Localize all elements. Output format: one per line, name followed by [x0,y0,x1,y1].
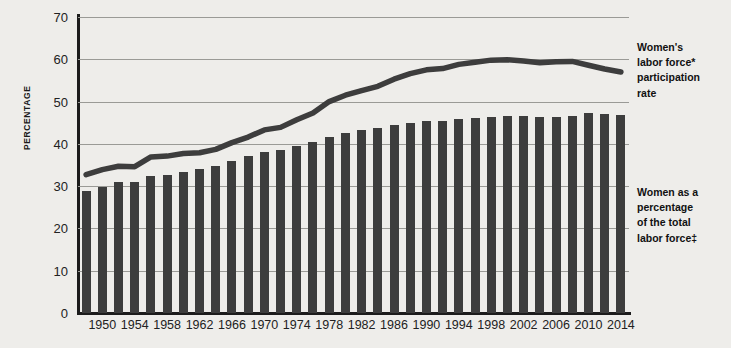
line-path [86,60,621,175]
line-series [78,17,629,313]
y-axis-tick-labels: 706050403020100 [34,0,68,348]
y-tick-label: 20 [34,221,68,236]
y-tick-label: 40 [34,136,68,151]
x-tick-label: 1962 [186,318,214,332]
x-tick-label: 1990 [413,318,441,332]
annotation-line: labor force‡ [637,231,729,246]
y-tick-label: 60 [34,52,68,67]
x-axis-tick-labels: 1950195419581962196619701974197819821986… [0,318,731,338]
y-tick-label: 30 [34,179,68,194]
chart-canvas: PERCENTAGE 706050403020100 1950195419581… [0,0,731,348]
x-tick-label: 1958 [153,318,181,332]
annotation-line: of the total [637,215,729,230]
x-tick-label: 1986 [380,318,408,332]
annotation-line: participation [637,70,729,85]
x-tick-label: 1954 [121,318,149,332]
x-tick-label: 1994 [445,318,473,332]
x-tick-label: 2010 [575,318,603,332]
plot-area [78,17,629,313]
line-series-annotation: Women'slabor force*participationrate [637,40,729,101]
annotation-line: Women's [637,40,729,55]
annotation-line: labor force* [637,55,729,70]
x-tick-label: 1974 [283,318,311,332]
y-tick-label: 50 [34,94,68,109]
x-tick-label: 1998 [477,318,505,332]
x-tick-label: 1978 [315,318,343,332]
y-axis-title: PERCENTAGE [22,86,32,150]
x-tick-label: 2002 [510,318,538,332]
x-tick-label: 1982 [348,318,376,332]
y-tick-label: 70 [34,10,68,25]
x-tick-label: 2006 [542,318,570,332]
x-tick-label: 1950 [88,318,116,332]
x-tick-label: 1970 [250,318,278,332]
bar-series-annotation: Women as apercentageof the totallabor fo… [637,185,729,246]
x-tick-label: 2014 [607,318,635,332]
x-tick-label: 1966 [218,318,246,332]
annotation-line: rate [637,86,729,101]
annotation-line: percentage [637,200,729,215]
annotation-line: Women as a [637,185,729,200]
y-tick-label: 10 [34,263,68,278]
